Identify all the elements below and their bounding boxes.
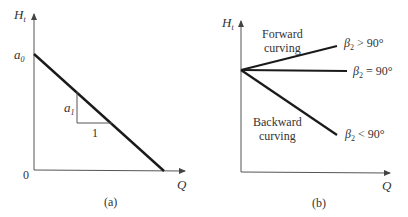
run-label: 1 — [92, 126, 98, 140]
caption-b: (b) — [312, 196, 326, 210]
radial-line — [241, 70, 347, 71]
x-axis-label: Q — [382, 178, 392, 193]
beta-eq-90-label: β2 = 90° — [352, 64, 393, 80]
intercept-label: a0 — [14, 47, 25, 64]
beta-lt-90-label: β2 < 90° — [344, 127, 385, 143]
head-flow-line — [34, 54, 164, 171]
x-axis-label: Q — [177, 177, 187, 192]
panel-b: Ht Forward curving Backward curving β2 >… — [221, 15, 393, 210]
x-axis — [241, 172, 390, 173]
y-axis-label: Ht — [13, 7, 26, 24]
origin-label: 0 — [23, 168, 29, 182]
caption-a: (a) — [104, 195, 117, 209]
backward-region-label-2: curving — [259, 129, 296, 143]
pump-characteristic-diagram: Ht a0 a1 1 0 Q (a) Ht Forward curving Ba… — [0, 0, 408, 217]
forward-region-label-2: curving — [264, 41, 301, 55]
panel-a: Ht a0 a1 1 0 Q (a) — [13, 7, 187, 209]
y-axis-label: Ht — [221, 15, 234, 32]
slope-label: a1 — [64, 100, 75, 117]
forward-region-label-1: Forward — [262, 27, 303, 41]
backward-region-label-1: Backward — [253, 115, 302, 129]
beta-gt-90-label: β2 > 90° — [343, 36, 384, 52]
